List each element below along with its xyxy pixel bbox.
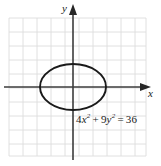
equation-term1-exponent: 2 <box>87 112 91 120</box>
ellipse-figure: y x 4x2+9y2=36 <box>0 0 161 166</box>
arrow-up-icon <box>69 4 77 15</box>
equation-annotation: 4x2+9y2=36 <box>76 114 137 125</box>
y-axis-label: y <box>62 3 67 14</box>
x-axis-label: x <box>148 88 153 99</box>
equation-equals-operator: = <box>115 113 125 125</box>
equation-plus-operator: + <box>91 113 101 125</box>
plot-canvas <box>0 0 161 166</box>
y-axis <box>69 4 77 160</box>
equation-right-side: 36 <box>126 113 137 125</box>
x-axis <box>4 83 151 91</box>
